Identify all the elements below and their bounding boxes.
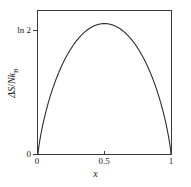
entropy-of-mixing-figure: ln 2 0 0 0.5 1 x ΔS/NkB (0, 0, 191, 187)
y-axis-label-slash: / (6, 84, 17, 87)
x-tick-label-0-5: 0.5 (92, 156, 116, 166)
x-tick-mark-0 (37, 151, 38, 155)
x-tick-label-0: 0 (27, 156, 47, 166)
entropy-curve (38, 24, 171, 154)
x-tick-label-1: 1 (161, 156, 181, 166)
x-tick-mark-1 (171, 151, 172, 155)
x-axis-label: x (0, 168, 191, 179)
y-axis-label-n: N (6, 77, 17, 84)
y-axis-label-delta: Δ (6, 92, 17, 98)
curve-svg (38, 11, 171, 154)
x-tick-mark-0-5 (104, 151, 105, 155)
x-axis-label-text: x (93, 168, 97, 179)
y-axis-label: ΔS/NkB (6, 18, 20, 148)
y-axis-label-b-subscript: B (12, 68, 20, 73)
plot-frame (37, 10, 172, 155)
y-axis-label-s: S (6, 87, 17, 92)
y-axis-label-k: k (6, 73, 17, 77)
